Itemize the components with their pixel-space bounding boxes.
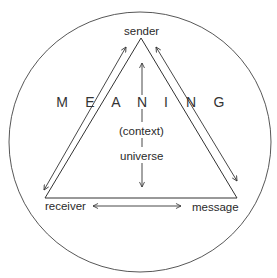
message-label: message <box>192 201 239 213</box>
universe-circle <box>9 12 271 272</box>
sender-receiver-arrow <box>44 47 126 190</box>
sender-label: sender <box>124 25 159 37</box>
meaning-letter-a: A <box>111 95 120 109</box>
meaning-triangle <box>45 38 237 198</box>
meaning-letter-g: G <box>214 95 225 109</box>
universe-label: universe <box>120 150 163 162</box>
meaning-letter-m: M <box>56 95 68 109</box>
context-label: (context) <box>119 125 164 137</box>
diagram-canvas <box>0 0 277 278</box>
meaning-letter-n2: N <box>186 95 196 109</box>
sender-message-arrow <box>156 47 237 181</box>
receiver-label: receiver <box>45 200 86 212</box>
meaning-diagram: sender (context) universe receiver messa… <box>0 0 277 278</box>
meaning-letter-i: I <box>164 95 168 109</box>
meaning-letter-e: E <box>85 95 94 109</box>
meaning-letter-n1: N <box>137 95 147 109</box>
